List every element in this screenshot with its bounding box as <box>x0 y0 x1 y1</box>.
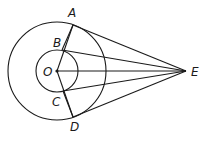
label-E: E <box>191 65 199 79</box>
segment-CD <box>63 91 73 117</box>
segment-BE <box>62 50 186 71</box>
label-D: D <box>70 120 79 134</box>
geometry-diagram: A B O C D E <box>0 0 212 146</box>
label-C: C <box>52 95 61 109</box>
segment-CE <box>63 71 186 91</box>
segment-DE <box>73 71 186 117</box>
point-O-dot <box>55 69 58 72</box>
segment-BA <box>62 25 73 50</box>
label-B: B <box>53 36 61 50</box>
segment-AE <box>73 25 186 71</box>
label-A: A <box>67 6 76 20</box>
label-O: O <box>43 65 52 79</box>
